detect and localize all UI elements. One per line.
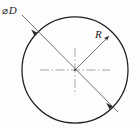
- center-point-mark: [74, 69, 76, 71]
- radius-dimension-label: R: [95, 29, 102, 40]
- diameter-dimension-label: ⌀D: [2, 5, 17, 16]
- radius-value-text: R: [95, 28, 102, 40]
- drawing-vector-graphic: [0, 0, 140, 129]
- technical-drawing-canvas: ⌀D R: [0, 0, 140, 129]
- diameter-arrowhead-upper-left: [31, 30, 37, 36]
- diameter-leader-line: [22, 15, 118, 112]
- radius-leader-line: [75, 36, 109, 70]
- diameter-symbol-icon: ⌀: [2, 5, 8, 16]
- diameter-value-text: D: [9, 4, 17, 16]
